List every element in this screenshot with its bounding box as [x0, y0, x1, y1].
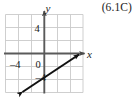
y-axis-label: y: [45, 2, 51, 14]
y-tick-label-four: 4: [35, 23, 41, 34]
x-axis-label: x: [86, 48, 92, 60]
y-tick-label-negative-four: –4: [35, 72, 47, 83]
origin-label: 0: [36, 59, 41, 70]
coordinate-graph: y x –4 0 4 –4: [0, 0, 135, 102]
x-tick-label-negative-four: –4: [9, 59, 21, 70]
graph-figure: (6.1C): [0, 0, 135, 102]
